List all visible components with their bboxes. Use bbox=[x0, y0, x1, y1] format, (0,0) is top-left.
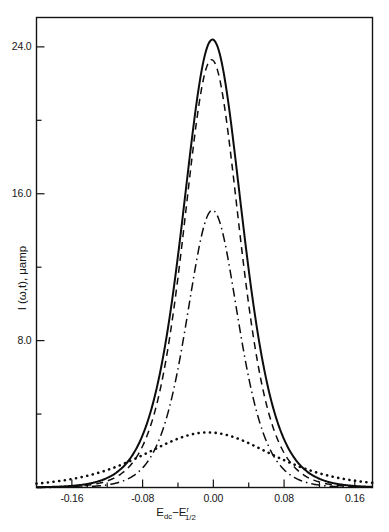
y-axis-title-args: (ω,t) bbox=[16, 281, 28, 304]
curve-dashdot bbox=[37, 210, 373, 487]
y-axis-title-comma: , bbox=[16, 278, 28, 281]
curve-solid bbox=[37, 40, 373, 488]
svg-text:I(ω,t),μamp: I(ω,t),μamp bbox=[16, 246, 28, 310]
y-axis-title: I(ω,t),μamp bbox=[16, 246, 28, 310]
y-axis-title-symbol: I bbox=[16, 307, 28, 310]
x-tick-label: 0.16 bbox=[345, 492, 365, 504]
x-axis-title-sub2: 1/2 bbox=[185, 513, 196, 522]
x-tick-label: 0.08 bbox=[274, 492, 294, 504]
plot-frame bbox=[37, 18, 373, 488]
y-tick-label: 8.0 bbox=[18, 334, 32, 346]
y-tick-label: 24.0 bbox=[12, 40, 32, 52]
curve-dotted bbox=[37, 432, 373, 483]
y-axis-title-units: μamp bbox=[16, 246, 28, 275]
x-axis-tick-labels: -0.16-0.080.000.080.16 bbox=[60, 492, 365, 504]
x-axis-title: Edc−Er1/2 bbox=[156, 505, 196, 522]
data-curves bbox=[37, 40, 373, 488]
x-tick-label: 0.00 bbox=[204, 492, 224, 504]
y-axis-ticks bbox=[37, 47, 45, 414]
chart-figure: 8.016.024.0 -0.16-0.080.000.080.16 Edc−E… bbox=[0, 0, 389, 532]
x-tick-label: -0.08 bbox=[131, 492, 154, 504]
svg-text:Edc−Er1/2: Edc−Er1/2 bbox=[156, 505, 196, 522]
y-tick-label: 16.0 bbox=[12, 187, 32, 199]
curve-dashed bbox=[37, 60, 373, 488]
x-axis-title-sub1: dc bbox=[164, 512, 172, 521]
x-tick-label: -0.16 bbox=[60, 492, 83, 504]
